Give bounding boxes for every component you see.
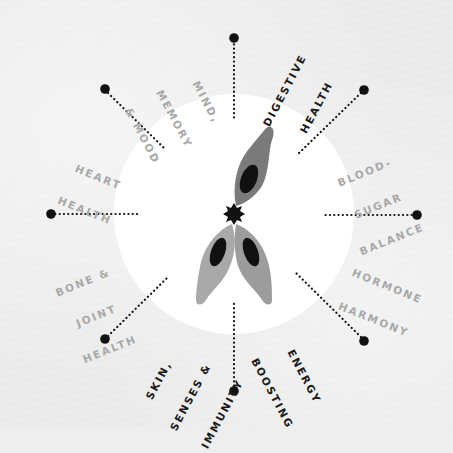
spoke-dot-top-left (100, 84, 110, 94)
label-line: DIGESTIVE (260, 52, 308, 128)
label-line: JOINT (57, 295, 136, 336)
label-line: SUGAR (337, 184, 419, 227)
label-line: HEART (61, 157, 136, 197)
label-line: BLOOD- (324, 151, 406, 194)
label-line: HORMONE (345, 264, 429, 307)
label-line: MIND, (182, 64, 230, 140)
spoke-dot-top-right (359, 85, 369, 95)
spoke-dot-top (229, 33, 239, 43)
label-line: ENERGY (280, 336, 330, 416)
spoke-dot-bottom-right (359, 336, 369, 346)
label-line: BONE & (43, 262, 122, 303)
label-line: MEMORY (151, 81, 199, 157)
